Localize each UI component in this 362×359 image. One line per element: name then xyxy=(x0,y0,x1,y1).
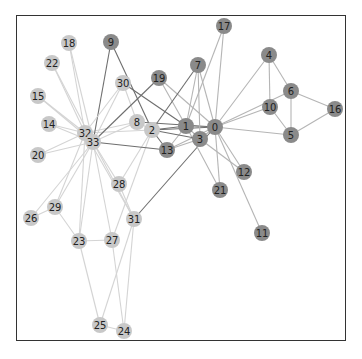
edge-0-12 xyxy=(215,127,244,172)
node-label: 6 xyxy=(288,86,294,97)
edge-18-32 xyxy=(69,43,85,133)
edge-0-11 xyxy=(215,127,262,233)
network-graph: 0123456789101112131415161718192021222324… xyxy=(0,0,362,359)
node-5: 5 xyxy=(283,127,299,143)
node-label: 14 xyxy=(43,119,56,130)
node-label: 24 xyxy=(118,326,131,337)
node-2: 2 xyxy=(144,122,160,138)
node-label: 10 xyxy=(264,102,277,113)
edge-13-33 xyxy=(93,142,167,150)
edge-30-32 xyxy=(85,83,123,133)
node-label: 23 xyxy=(73,236,86,247)
edge-29-33 xyxy=(55,142,93,207)
node-label: 1 xyxy=(183,121,189,132)
edge-0-17 xyxy=(215,26,224,127)
node-0: 0 xyxy=(207,119,223,135)
node-15: 15 xyxy=(30,88,46,104)
edge-1-17 xyxy=(186,26,224,126)
node-4: 4 xyxy=(261,47,277,63)
node-14: 14 xyxy=(41,116,57,132)
node-25: 25 xyxy=(92,317,108,333)
node-13: 13 xyxy=(159,142,175,158)
node-label: 33 xyxy=(87,137,100,148)
node-label: 5 xyxy=(288,130,294,141)
node-3: 3 xyxy=(192,131,208,147)
edge-23-25 xyxy=(79,241,100,325)
edge-0-5 xyxy=(215,127,291,135)
edge-24-27 xyxy=(112,240,124,331)
node-label: 0 xyxy=(212,122,218,133)
node-30: 30 xyxy=(115,75,131,91)
edge-29-32 xyxy=(55,133,85,207)
node-layer: 0123456789101112131415161718192021222324… xyxy=(23,18,343,339)
edge-0-10 xyxy=(215,107,270,127)
node-26: 26 xyxy=(23,210,39,226)
node-label: 18 xyxy=(63,38,76,49)
node-18: 18 xyxy=(61,35,77,51)
node-21: 21 xyxy=(212,182,228,198)
node-label: 15 xyxy=(32,91,45,102)
node-10: 10 xyxy=(262,99,278,115)
edge-30-33 xyxy=(93,83,123,142)
node-label: 31 xyxy=(128,214,141,225)
edge-1-19 xyxy=(159,78,186,126)
node-1: 1 xyxy=(178,118,194,134)
edge-layer xyxy=(31,26,335,331)
node-label: 11 xyxy=(256,228,269,239)
node-22: 22 xyxy=(44,55,60,71)
node-20: 20 xyxy=(30,147,46,163)
node-17: 17 xyxy=(216,18,232,34)
edge-0-7 xyxy=(198,65,215,127)
node-label: 26 xyxy=(25,213,38,224)
node-label: 3 xyxy=(197,134,203,145)
edge-23-32 xyxy=(79,133,85,241)
node-19: 19 xyxy=(151,70,167,86)
node-label: 27 xyxy=(106,235,119,246)
node-label: 29 xyxy=(49,202,62,213)
edge-0-6 xyxy=(215,91,291,127)
node-12: 12 xyxy=(236,164,252,180)
node-label: 19 xyxy=(153,73,166,84)
node-7: 7 xyxy=(190,57,206,73)
node-9: 9 xyxy=(103,34,119,50)
node-29: 29 xyxy=(47,199,63,215)
node-28: 28 xyxy=(111,176,127,192)
node-label: 9 xyxy=(108,37,114,48)
edge-0-4 xyxy=(215,55,269,127)
node-label: 17 xyxy=(218,21,231,32)
node-label: 16 xyxy=(329,104,342,115)
node-8: 8 xyxy=(129,114,145,130)
node-label: 2 xyxy=(149,125,155,136)
node-6: 6 xyxy=(283,83,299,99)
node-label: 12 xyxy=(238,167,251,178)
node-label: 30 xyxy=(117,78,130,89)
node-11: 11 xyxy=(254,225,270,241)
node-label: 20 xyxy=(32,150,45,161)
node-23: 23 xyxy=(71,233,87,249)
node-label: 7 xyxy=(195,60,201,71)
node-label: 8 xyxy=(134,117,140,128)
node-24: 24 xyxy=(116,323,132,339)
node-31: 31 xyxy=(126,211,142,227)
node-16: 16 xyxy=(327,101,343,117)
node-label: 22 xyxy=(46,58,59,69)
node-label: 25 xyxy=(94,320,107,331)
node-label: 13 xyxy=(161,145,174,156)
node-label: 4 xyxy=(266,50,272,61)
node-label: 21 xyxy=(214,185,227,196)
node-27: 27 xyxy=(104,232,120,248)
node-33: 33 xyxy=(85,134,101,150)
node-label: 28 xyxy=(113,179,126,190)
